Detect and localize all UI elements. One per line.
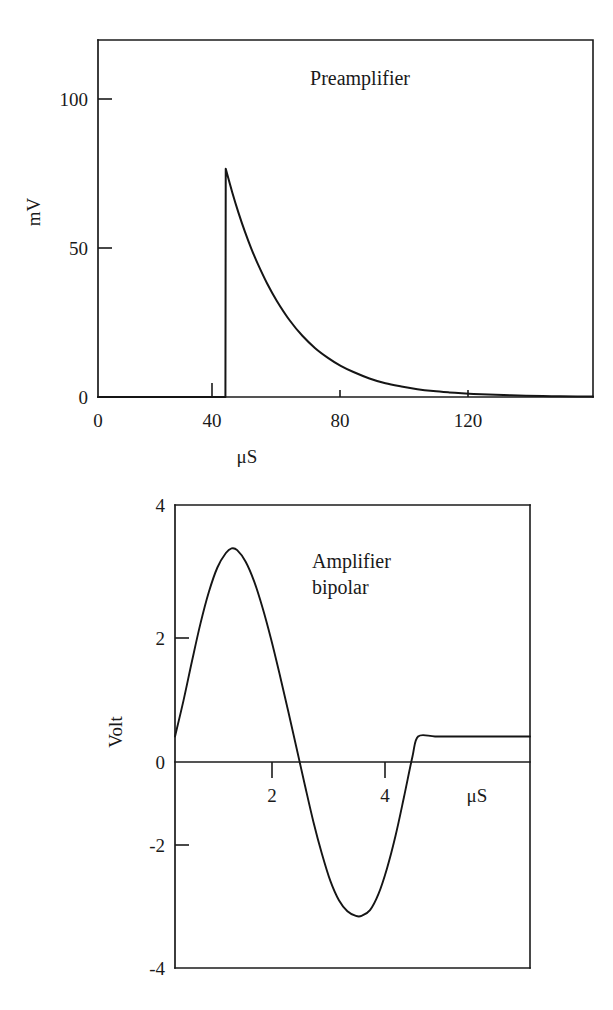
preamp-y-axis-title: mV: [23, 197, 44, 226]
preamp-ytick-label-0: 0: [79, 387, 89, 408]
bipolar-y-axis-title: Volt: [105, 716, 126, 748]
bipolar-ytick-label-neg4: -4: [149, 958, 165, 979]
bipolar-ytick-label-neg2: -2: [149, 835, 165, 856]
bipolar-xtick-label-2: 2: [267, 785, 277, 806]
chart-preamplifier: 100 50 0 0 40 80 120 μS mV Preamplifier: [0, 0, 613, 480]
preamp-xtick-label-120: 120: [454, 410, 483, 431]
bipolar-ytick-label-4: 4: [156, 495, 166, 516]
bipolar-ytick-label-0: 0: [156, 752, 166, 773]
preamp-chart-title: Preamplifier: [310, 67, 410, 90]
preamp-ytick-label-50: 50: [69, 238, 88, 259]
figure-root: 100 50 0 0 40 80 120 μS mV Preamplifier …: [0, 0, 613, 1010]
bipolar-x-axis-title: μS: [467, 785, 488, 806]
bipolar-chart-title-line2: bipolar: [312, 576, 369, 599]
bipolar-ytick-label-2: 2: [156, 628, 166, 649]
preamp-xtick-label-0: 0: [93, 410, 103, 431]
preamp-xtick-label-40: 40: [203, 410, 222, 431]
preamp-data-curve: [98, 169, 593, 397]
preamp-ytick-label-100: 100: [60, 89, 89, 110]
bipolar-xtick-label-4: 4: [380, 785, 390, 806]
preamp-plot-frame: [98, 40, 593, 397]
bipolar-chart-title-line1: Amplifier: [312, 550, 391, 573]
chart-amplifier-bipolar: 4 2 0 -2 -4 2 4 μS Volt Amplifier bipola…: [0, 490, 613, 1010]
bipolar-data-curve: [175, 548, 530, 916]
preamp-xtick-label-80: 80: [331, 410, 350, 431]
preamp-x-axis-title: μS: [237, 446, 258, 467]
